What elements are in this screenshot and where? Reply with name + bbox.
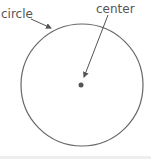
- circle-diagram: circle center: [0, 0, 151, 159]
- center-label: center: [96, 3, 135, 15]
- diagram-canvas: [0, 0, 151, 159]
- circle-label: circle: [1, 8, 33, 20]
- center-dot: [79, 83, 84, 88]
- circle-arrow: [31, 19, 51, 28]
- bottom-divider: [0, 156, 151, 159]
